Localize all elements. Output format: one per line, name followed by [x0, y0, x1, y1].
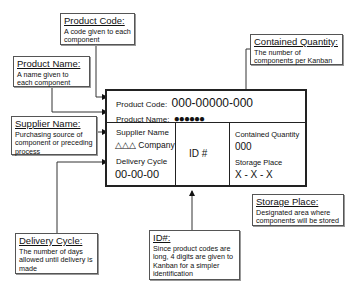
callout-supplier-name: Supplier Name: Purchasing source of comp…	[11, 116, 97, 155]
callout-product-name: Product Name: A name given to each compo…	[13, 56, 90, 87]
callout-desc: A code given to each component	[64, 28, 131, 45]
contained-quantity-label: Contained Quantity	[235, 130, 299, 139]
callout-title: Delivery Cycle:	[19, 235, 94, 247]
column-divider	[175, 123, 176, 185]
delivery-cycle-value: 00-00-00	[115, 168, 159, 180]
callout-desc: Designated area where components will be…	[256, 209, 340, 226]
callout-title: Product Code:	[64, 15, 131, 27]
callout-storage-place: Storage Place: Designated area where com…	[252, 194, 344, 226]
callout-product-code: Product Code: A code given to each compo…	[60, 13, 135, 45]
callout-title: Storage Place:	[256, 196, 340, 208]
storage-place-label: Storage Place	[235, 158, 282, 167]
callout-id: ID#: Since product codes are long, 4 dig…	[149, 230, 240, 280]
callout-title: Product Name:	[17, 58, 86, 70]
supplier-name-value: △△△ Company	[115, 140, 175, 150]
id-label: ID #	[189, 148, 207, 159]
callout-delivery-cycle: Delivery Cycle: The number of days allow…	[15, 233, 98, 274]
callout-title: Supplier Name:	[15, 118, 93, 130]
storage-place-value: X - X - X	[235, 169, 273, 180]
callout-contained-quantity: Contained Quantity: The number of compon…	[250, 34, 343, 65]
delivery-cycle-label: Delivery Cycle	[116, 157, 167, 166]
callout-desc: A name given to each component	[17, 71, 86, 88]
column-divider	[229, 123, 230, 185]
callout-title: ID#:	[153, 232, 236, 244]
contained-quantity-value: 000	[235, 141, 252, 152]
callout-desc: The number of days allowed until deliver…	[19, 248, 94, 273]
callout-desc: Since product codes are long, 4 digits a…	[153, 245, 236, 279]
product-name-row: Product Name: ●●●●●●	[116, 108, 204, 126]
callout-desc: Purchasing source of component or preced…	[15, 131, 93, 156]
callout-desc: The number of components per Kanban	[254, 49, 339, 66]
callout-title: Contained Quantity:	[254, 36, 339, 48]
supplier-name-label: Supplier Name	[116, 128, 169, 137]
header-divider	[107, 122, 305, 123]
kanban-card: Product Code: 000-00000-000 Product Name…	[105, 89, 307, 187]
